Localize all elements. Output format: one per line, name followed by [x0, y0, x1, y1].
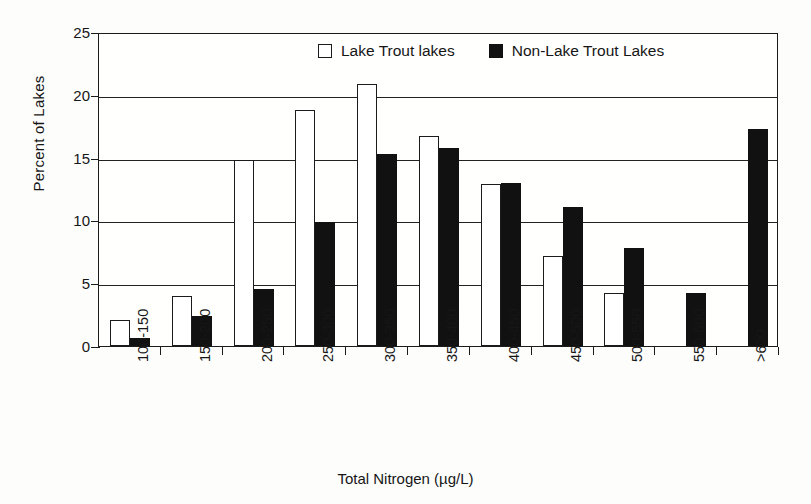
bar-lake-trout-lakes: [357, 84, 377, 347]
bar-group: [717, 34, 779, 346]
x-tick-mark: [778, 347, 779, 355]
bar-group: [223, 34, 285, 346]
x-tick-label: 500-550: [630, 266, 645, 362]
bar-group: [594, 34, 656, 346]
x-tick-mark: [469, 347, 470, 355]
y-tick-label: 5: [30, 276, 90, 291]
y-axis-title: Percent of Lakes: [30, 24, 47, 244]
legend-entry-non-lake-trout-lakes: Non-Lake Trout Lakes: [489, 42, 665, 60]
x-tick-label: 150-200: [198, 266, 213, 362]
x-tick-mark: [345, 347, 346, 355]
x-tick-mark: [222, 347, 223, 355]
bar-group: [470, 34, 532, 346]
x-tick-label: 100-150: [136, 266, 151, 362]
bar-group: [99, 34, 161, 346]
bar-lake-trout-lakes: [543, 256, 563, 346]
chart-legend: Lake Trout lakes Non-Lake Trout Lakes: [318, 42, 664, 60]
bar-group: [161, 34, 223, 346]
x-tick-label: 350-400: [445, 266, 460, 362]
y-tick-label: 15: [30, 151, 90, 166]
bar-lake-trout-lakes: [234, 160, 254, 346]
chart-figure: Percent of Lakes 0510152025 100-150150-2…: [0, 0, 811, 504]
x-tick-label: 450-500: [569, 266, 584, 362]
x-tick-label: >600: [754, 266, 769, 362]
x-tick-label: 200-250: [260, 266, 275, 362]
bar-group: [532, 34, 594, 346]
bar-lake-trout-lakes: [481, 184, 501, 346]
x-tick-mark: [283, 347, 284, 355]
legend-label: Lake Trout lakes: [341, 42, 455, 60]
black-square-icon: [489, 44, 503, 58]
x-tick-mark: [531, 347, 532, 355]
y-tick-label: 25: [30, 25, 90, 40]
x-tick-mark: [654, 347, 655, 355]
legend-label: Non-Lake Trout Lakes: [512, 42, 665, 60]
x-tick-mark: [593, 347, 594, 355]
bar-group: [408, 34, 470, 346]
x-tick-label: 300-350: [383, 266, 398, 362]
y-tick-mark: [91, 347, 100, 348]
x-axis-title: Total Nitrogen (µg/L): [0, 470, 811, 487]
white-square-icon: [318, 44, 332, 58]
x-tick-label: 400-450: [507, 266, 522, 362]
bar-lake-trout-lakes: [110, 320, 130, 346]
bar-group: [346, 34, 408, 346]
bar-lake-trout-lakes: [604, 293, 624, 346]
bar-lake-trout-lakes: [419, 136, 439, 346]
bar-lake-trout-lakes: [295, 110, 315, 346]
x-tick-mark: [407, 347, 408, 355]
x-tick-mark: [160, 347, 161, 355]
legend-entry-lake-trout-lakes: Lake Trout lakes: [318, 42, 455, 60]
y-tick-label: 20: [30, 88, 90, 103]
bar-lake-trout-lakes: [172, 296, 192, 346]
y-tick-label: 0: [30, 339, 90, 354]
x-tick-mark: [716, 347, 717, 355]
bar-group: [284, 34, 346, 346]
y-tick-label: 10: [30, 213, 90, 228]
x-tick-label: 550-600: [692, 266, 707, 362]
x-tick-label: 250-300: [321, 266, 336, 362]
bar-group: [655, 34, 717, 346]
